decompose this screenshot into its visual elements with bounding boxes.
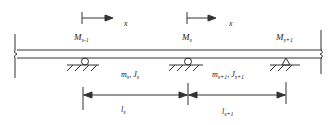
span-2-length-label: ls+1 [222,107,234,117]
moment-label-s-plus-1: Ms+1 [275,32,293,43]
x-axis-label-1: x [123,19,128,28]
beam-diagram: x x Ms-1 Ms Ms+1 ms, Js ms+1, Js+1 ls ls… [0,0,332,125]
x-axis-arrow-2-icon [187,12,216,24]
support-3-triangle-icon [270,58,300,71]
x-axis-label-2: x [228,19,233,28]
dimension-ls [83,83,188,110]
left-break-line [14,34,17,78]
span-1-mass-inertia-label: ms, Js [121,70,140,80]
x-axis-arrow-1-icon [82,12,113,24]
support-1-pin-icon [67,58,99,71]
dimension-ls1 [188,82,286,104]
moment-label-s: Ms [181,32,193,43]
span-2-mass-inertia-label: ms+1, Js+1 [212,70,244,80]
moment-label-s-minus-1: Ms-1 [73,32,89,43]
support-2-pin-icon [169,58,203,71]
right-break-line [320,30,322,74]
span-1-length-label: ls [121,105,126,115]
